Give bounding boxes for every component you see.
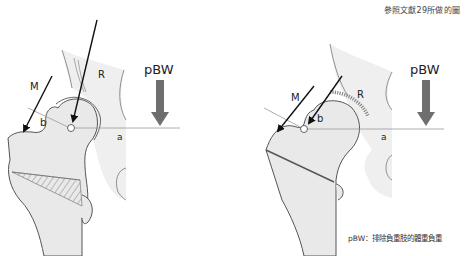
right-pbw-arrow — [417, 80, 435, 126]
right-label-m: M — [291, 92, 300, 103]
legend-note: pBW：排除負重肢的體重負重 — [348, 232, 442, 243]
left-label-m: M — [30, 81, 39, 92]
left-rotation-center — [68, 125, 75, 132]
left-pbw-arrow — [151, 80, 169, 126]
left-label-pbw: pBW — [144, 62, 174, 77]
hip-biomechanics-figure: R M pBW b a R M pBW b — [0, 0, 466, 256]
right-femur — [266, 101, 360, 256]
left-diagram: R M pBW b a — [8, 20, 180, 256]
right-diagram: R M pBW b a — [264, 44, 444, 256]
left-label-b: b — [40, 117, 46, 128]
right-rotation-center — [301, 126, 308, 133]
left-label-r: R — [98, 69, 105, 80]
right-label-b: b — [317, 113, 323, 124]
right-label-a: a — [381, 132, 387, 142]
right-label-r: R — [357, 89, 364, 100]
right-label-pbw: pBW — [410, 62, 440, 77]
left-label-a: a — [117, 132, 123, 142]
